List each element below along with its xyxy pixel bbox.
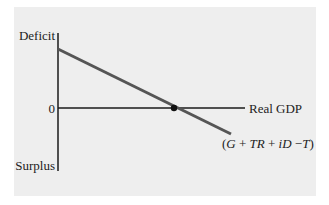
curve-label-part: + (265, 136, 279, 151)
balanced-budget-point (171, 105, 177, 111)
y-axis-origin-label: 0 (49, 102, 56, 115)
y-axis-label-deficit: Deficit (19, 29, 55, 42)
curve-label: (G + TR + iD −T) (222, 137, 314, 150)
curve-label-part: ) (309, 136, 313, 151)
x-axis-label: Real GDP (249, 102, 302, 115)
curve-label-part: − (292, 136, 303, 151)
y-axis-label-surplus: Surplus (15, 159, 55, 172)
curve-label-part: + (236, 136, 250, 151)
budget-deficit-line (58, 49, 231, 134)
curve-label-g: G (226, 136, 235, 151)
curve-label-id: iD (279, 136, 292, 151)
curve-label-tr: TR (250, 136, 265, 151)
